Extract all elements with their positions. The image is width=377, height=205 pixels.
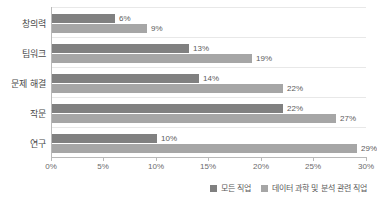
bar-value-label-2-0: 14% bbox=[203, 74, 219, 83]
category-label-3: 작문 bbox=[30, 109, 46, 119]
x-tick-label-2: 10% bbox=[148, 162, 164, 171]
bar-3-series-0[interactable] bbox=[52, 104, 283, 113]
gridline-0 bbox=[51, 7, 366, 8]
bar-3-series-1[interactable] bbox=[52, 114, 336, 123]
x-tick-label-6: 30% bbox=[358, 162, 374, 171]
bar-2-series-1[interactable] bbox=[52, 84, 283, 93]
x-tick-label-5: 25% bbox=[305, 162, 321, 171]
category-label-4: 연구 bbox=[30, 139, 46, 149]
x-tick-label-4: 20% bbox=[253, 162, 269, 171]
bar-value-label-3-1: 27% bbox=[340, 114, 356, 123]
bar-chart: 6% 9% 13% 19% 14% 22% 22% bbox=[0, 0, 377, 205]
bar-value-label-0-1: 9% bbox=[151, 24, 163, 33]
bar-value-label-1-1: 19% bbox=[256, 54, 272, 63]
bar-value-label-1-0: 13% bbox=[193, 44, 209, 53]
legend: 모든 직업 데이터 과학 및 분석 관련 직업 bbox=[0, 184, 367, 193]
bar-value-label-3-0: 22% bbox=[287, 104, 303, 113]
legend-label-0: 모든 직업 bbox=[221, 184, 251, 193]
bar-1-series-0[interactable] bbox=[52, 44, 189, 53]
x-tick-4 bbox=[261, 157, 262, 161]
bar-value-label-2-1: 22% bbox=[287, 84, 303, 93]
bar-0-series-1[interactable] bbox=[52, 24, 147, 33]
plot-area: 6% 9% 13% 19% 14% 22% 22% bbox=[51, 7, 366, 157]
gridline-4 bbox=[51, 127, 366, 128]
category-label-1: 팀워크 bbox=[22, 49, 46, 59]
gridline-3 bbox=[51, 97, 366, 98]
bar-4-series-0[interactable] bbox=[52, 134, 157, 143]
legend-item-0[interactable]: 모든 직업 bbox=[210, 184, 251, 193]
x-tick-6 bbox=[366, 157, 367, 161]
legend-swatch-icon-0 bbox=[210, 185, 217, 192]
x-tick-1 bbox=[103, 157, 104, 161]
x-tick-2 bbox=[156, 157, 157, 161]
bar-value-label-0-0: 6% bbox=[119, 14, 131, 23]
bar-value-label-4-0: 10% bbox=[161, 134, 177, 143]
gridline-1 bbox=[51, 37, 366, 38]
x-tick-5 bbox=[313, 157, 314, 161]
bar-0-series-0[interactable] bbox=[52, 14, 115, 23]
gridline-2 bbox=[51, 67, 366, 68]
x-tick-label-0: 0% bbox=[45, 162, 57, 171]
x-tick-0 bbox=[51, 157, 52, 161]
bar-4-series-1[interactable] bbox=[52, 144, 357, 153]
legend-label-1: 데이터 과학 및 분석 관련 직업 bbox=[272, 184, 367, 193]
bar-value-label-4-1: 29% bbox=[361, 144, 377, 153]
legend-swatch-icon-1 bbox=[261, 185, 268, 192]
bar-1-series-1[interactable] bbox=[52, 54, 252, 63]
category-label-2: 문제 해결 bbox=[11, 79, 46, 89]
x-tick-label-1: 5% bbox=[97, 162, 109, 171]
category-label-0: 창의력 bbox=[22, 19, 46, 29]
bar-2-series-0[interactable] bbox=[52, 74, 199, 83]
x-tick-3 bbox=[208, 157, 209, 161]
x-tick-label-3: 15% bbox=[200, 162, 216, 171]
legend-item-1[interactable]: 데이터 과학 및 분석 관련 직업 bbox=[261, 184, 367, 193]
